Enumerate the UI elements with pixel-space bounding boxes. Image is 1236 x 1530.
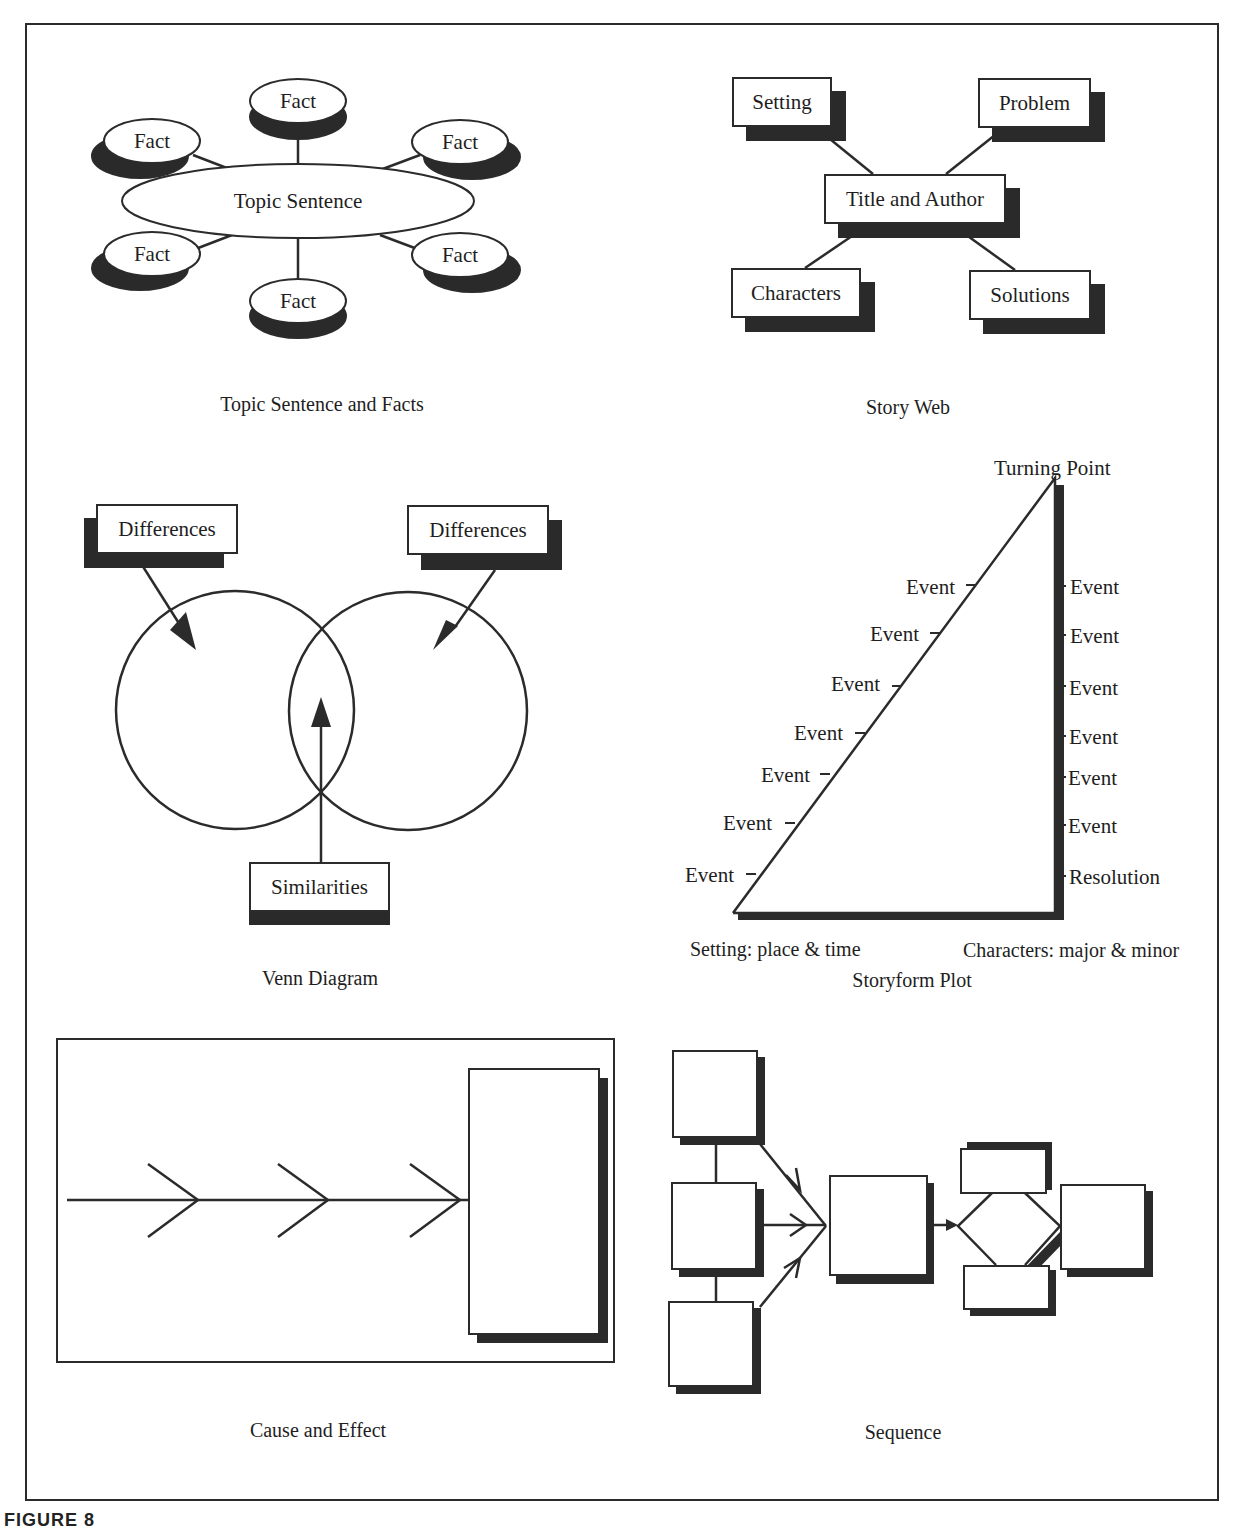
effect-box	[468, 1068, 600, 1335]
story-node-setting-label: Setting	[752, 90, 812, 115]
story-node-problem: Problem	[978, 78, 1091, 128]
venn-caption: Venn Diagram	[262, 968, 378, 988]
plot-setting-label: Setting: place & time	[690, 939, 861, 959]
plot-rising-event: Event	[794, 723, 843, 744]
sequence-box-lower-branch	[963, 1265, 1050, 1310]
topic-sentence-node: Topic Sentence	[234, 191, 363, 212]
story-node-problem-label: Problem	[999, 91, 1070, 116]
story-node-setting: Setting	[732, 77, 832, 127]
sequence-box-center	[829, 1175, 928, 1276]
plot-rising-event: Event	[723, 813, 772, 834]
sequence-caption: Sequence	[865, 1422, 942, 1442]
story-web-caption: Story Web	[866, 397, 950, 417]
sequence-box-input-3	[668, 1301, 754, 1387]
plot-falling-event: Event	[1069, 727, 1118, 748]
sequence-box-upper-branch	[960, 1148, 1047, 1194]
plot-characters-label: Characters: major & minor	[963, 940, 1179, 960]
plot-rising-event: Event	[906, 577, 955, 598]
plot-falling-event: Event	[1069, 678, 1118, 699]
figure-caption: FIGURE 8	[4, 1510, 95, 1530]
plot-falling-event: Event	[1070, 626, 1119, 647]
plot-turning-point: Turning Point	[994, 458, 1111, 479]
sequence-box-input-2	[671, 1182, 757, 1270]
plot-rising-event: Event	[685, 865, 734, 886]
venn-similarities-label: Similarities	[271, 875, 368, 900]
plot-falling-event: Event	[1068, 816, 1117, 837]
venn-right-differences: Differences	[407, 505, 549, 555]
plot-rising-event: Event	[831, 674, 880, 695]
fact-node-top: Fact	[280, 91, 316, 112]
cause-effect-caption: Cause and Effect	[250, 1420, 386, 1440]
story-node-title-author: Title and Author	[824, 174, 1006, 224]
venn-left-differences-label: Differences	[118, 517, 216, 542]
fact-node-upper-left: Fact	[134, 131, 170, 152]
story-node-characters: Characters	[731, 268, 861, 318]
plot-rising-event: Event	[870, 624, 919, 645]
story-node-solutions: Solutions	[969, 270, 1091, 320]
sequence-box-input-1	[672, 1050, 758, 1138]
storyform-plot-caption: Storyform Plot	[852, 970, 971, 990]
venn-right-differences-label: Differences	[429, 518, 527, 543]
fact-node-lower-left: Fact	[134, 244, 170, 265]
plot-falling-event: Event	[1070, 577, 1119, 598]
plot-resolution: Resolution	[1069, 867, 1160, 888]
venn-left-differences: Differences	[96, 504, 238, 554]
sequence-box-output	[1060, 1184, 1146, 1270]
fact-node-bottom: Fact	[280, 291, 316, 312]
story-node-title-author-label: Title and Author	[846, 187, 984, 212]
fact-node-upper-right: Fact	[442, 132, 478, 153]
venn-similarities: Similarities	[249, 862, 390, 912]
fact-node-lower-right: Fact	[442, 245, 478, 266]
story-node-characters-label: Characters	[751, 281, 841, 306]
topic-sentence-caption: Topic Sentence and Facts	[220, 394, 424, 414]
story-node-solutions-label: Solutions	[990, 283, 1069, 308]
plot-rising-event: Event	[761, 765, 810, 786]
plot-falling-event: Event	[1068, 768, 1117, 789]
